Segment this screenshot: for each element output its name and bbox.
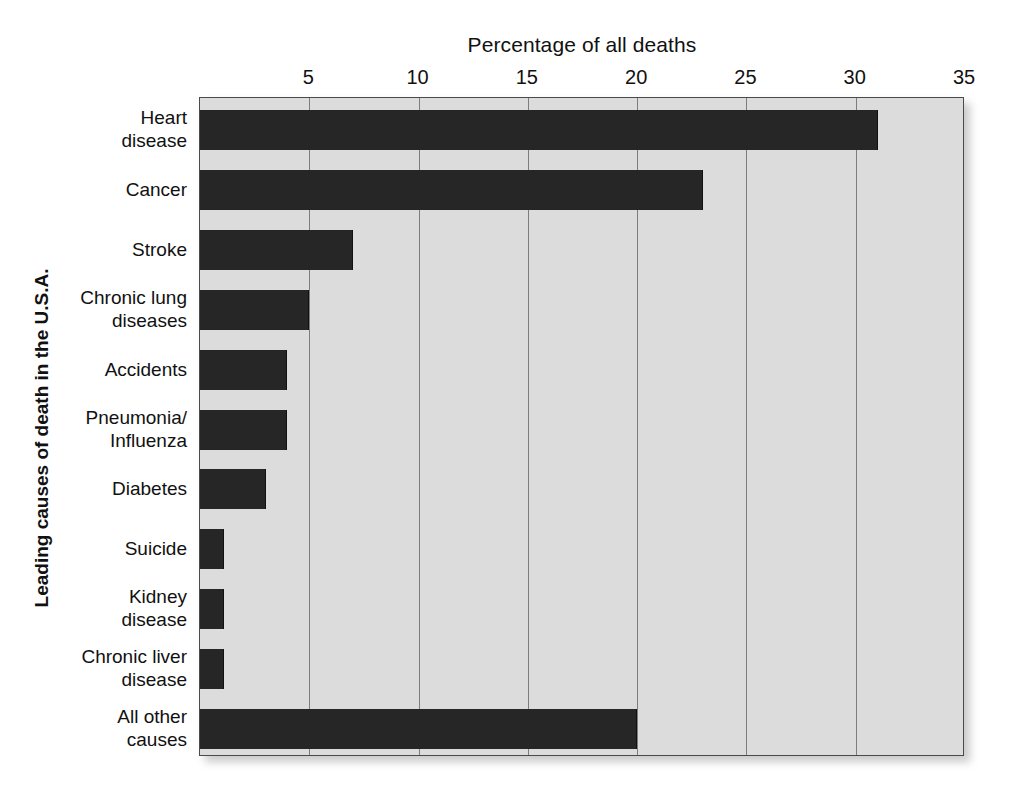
y-category-label: Chronic liver disease [81,645,187,691]
y-category-label: Chronic lung diseases [80,286,187,332]
x-tick-label: 25 [734,64,756,90]
bar [200,410,287,450]
bar [200,110,878,150]
x-tick-label: 15 [516,64,538,90]
bar [200,529,224,569]
y-category-label: Accidents [105,357,187,380]
bar [200,230,353,270]
x-tick-label: 30 [844,64,866,90]
x-tick-label: 5 [303,64,314,90]
x-tick-label: 20 [625,64,647,90]
bar [200,350,287,390]
x-axis-tick-labels: 5101520253035 [0,64,1011,90]
x-tick-label: 10 [406,64,428,90]
gridline [856,98,857,755]
y-axis-category-labels: Heart diseaseCancerStrokeChronic lung di… [0,97,193,756]
y-category-label: Cancer [126,177,187,200]
y-category-label: Kidney disease [122,585,188,631]
y-category-label: All other causes [117,705,187,751]
y-category-label: Stroke [132,237,187,260]
bar [200,589,224,629]
x-axis-title: Percentage of all deaths [199,33,965,57]
bar [200,469,266,509]
bar [200,649,224,689]
y-category-label: Suicide [125,537,187,560]
bar-chart-figure: Percentage of all deaths 5101520253035 L… [0,0,1011,803]
y-category-label: Pneumonia/ Influenza [86,406,187,452]
bar [200,170,703,210]
y-category-label: Heart disease [122,106,188,152]
x-tick-label: 35 [953,64,975,90]
bar [200,709,637,749]
y-category-label: Diabetes [112,477,187,500]
bar [200,290,309,330]
gridline [746,98,747,755]
plot-area [199,97,964,756]
